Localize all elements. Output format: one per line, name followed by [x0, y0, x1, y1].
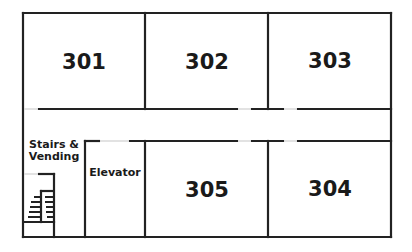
room-301-label: 301 — [62, 50, 106, 74]
room-305-label: 305 — [185, 178, 229, 202]
stairs-label-line2: Vending — [29, 151, 80, 163]
room-304-label: 304 — [308, 177, 352, 201]
floor-plan — [0, 0, 412, 252]
room-303-label: 303 — [308, 49, 352, 73]
stairs-vending-label: Stairs & Vending — [29, 139, 80, 163]
room-302-label: 302 — [185, 50, 229, 74]
elevator-label: Elevator — [89, 167, 141, 179]
